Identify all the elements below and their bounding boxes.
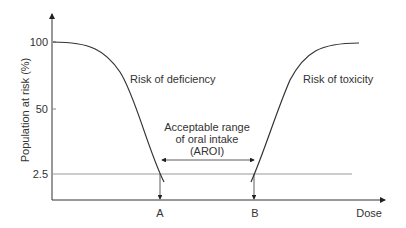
ytick-100: 100 <box>30 36 48 48</box>
x-axis-label: Dose <box>356 207 382 219</box>
toxicity-label: Risk of toxicity <box>303 73 374 85</box>
y-axis-label: Population at risk (%) <box>19 58 31 163</box>
aroi-label-1: Acceptable range <box>164 121 250 133</box>
deficiency-label: Risk of deficiency <box>130 73 216 85</box>
aroi-label-3: (AROI) <box>190 145 224 157</box>
aroi-label-2: of oral intake <box>176 133 239 145</box>
deficiency-curve <box>53 42 164 182</box>
toxicity-curve <box>251 43 359 182</box>
xtick-B: B <box>251 207 258 219</box>
xtick-A: A <box>156 207 164 219</box>
ytick-2-5: 2.5 <box>33 168 48 180</box>
ytick-50: 50 <box>36 103 48 115</box>
chart: 100 50 2.5 A B Dose Population at risk (… <box>0 0 406 228</box>
